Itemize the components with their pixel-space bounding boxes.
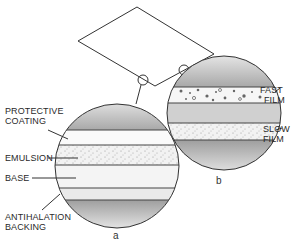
label-antihalation-backing: ANTIHALATION BACKING [5,212,71,232]
label-line: FAST [260,85,285,95]
caption-b: b [216,175,222,186]
label-base: BASE [5,173,29,183]
label-line: BACKING [5,222,71,232]
label-fast-film: FAST FILM [260,85,285,105]
label-line: SLOW [263,124,290,134]
label-line: FILM [263,134,290,144]
label-emulsion: EMULSION [5,153,53,163]
label-slow-film: SLOW FILM [263,124,290,144]
label-protective-coating: PROTECTIVE COATING [5,106,64,126]
label-line: ANTIHALATION [5,212,71,222]
caption-a: a [113,230,119,241]
label-line: PROTECTIVE [5,106,64,116]
label-line: COATING [5,116,64,126]
label-line: FILM [264,95,285,105]
